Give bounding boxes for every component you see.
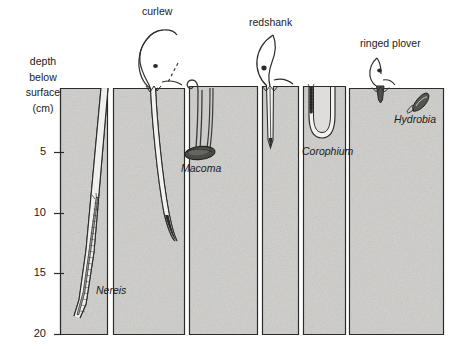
curlew-eye	[153, 64, 158, 68]
axis-caption-line-2: below	[12, 72, 74, 83]
organism-label-corophium: Corophium	[302, 146, 353, 157]
axis-caption-line-3: surface	[12, 87, 74, 98]
axis-caption-line-4: (cm)	[12, 103, 74, 114]
redshank-eye	[261, 66, 266, 71]
diagram-canvas: depth below surface (cm) 5 10 15 20 curl…	[0, 0, 458, 349]
organism-label-nereis: Nereis	[96, 285, 126, 296]
redshank-tail-stroke	[274, 79, 293, 84]
axis-tick-label-5: 5	[24, 146, 46, 157]
bird-label-ringed-plover: ringed plover	[360, 38, 421, 49]
diagram-artwork	[0, 0, 458, 349]
curlew-neck-stroke	[162, 81, 182, 85]
axis-tick-label-15: 15	[24, 267, 46, 278]
ringed-plover-tail-stroke	[383, 80, 395, 85]
axis-caption-line-1: depth	[12, 56, 74, 67]
axis-tick-label-20: 20	[24, 328, 46, 339]
organism-label-macoma: Macoma	[181, 163, 221, 174]
depth-axis-caption: depth below surface (cm)	[12, 56, 74, 113]
bird-label-redshank: redshank	[249, 17, 292, 28]
sediment-block-group	[55, 84, 450, 339]
bird-label-curlew: curlew	[142, 6, 172, 17]
ringed-plover-eye	[377, 68, 382, 72]
sediment-stipple	[55, 84, 450, 339]
organism-label-hydrobia: Hydrobia	[394, 114, 436, 125]
axis-tick-label-10: 10	[24, 207, 46, 218]
